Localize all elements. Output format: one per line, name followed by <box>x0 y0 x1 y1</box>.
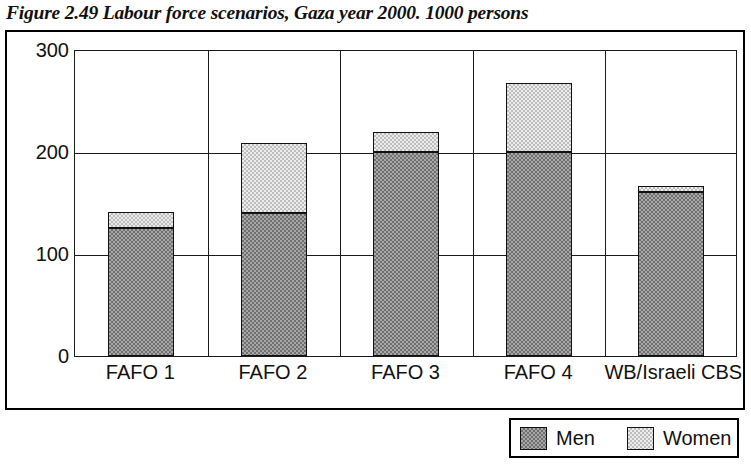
bar-segment-men-wb-israeli-cbs[interactable] <box>638 192 704 356</box>
category-separator-3 <box>473 51 474 356</box>
x-tick-fafo-2: FAFO 2 <box>207 359 340 385</box>
legend-item-women[interactable]: Women <box>627 427 732 450</box>
bar-segment-women-fafo-1[interactable] <box>108 212 174 228</box>
category-separator-4 <box>605 51 606 356</box>
bar-segment-women-fafo-2[interactable] <box>241 143 307 213</box>
x-tick-fafo-4: FAFO 4 <box>472 359 605 385</box>
bar-segment-men-fafo-4[interactable] <box>506 152 572 356</box>
plot-inner <box>75 51 736 356</box>
x-tick-wb-israeli-cbs: WB/Israeli CBS <box>604 359 737 385</box>
legend-item-men[interactable]: Men <box>520 427 595 450</box>
bar-segment-men-fafo-1[interactable] <box>108 228 174 356</box>
bar-segment-men-fafo-3[interactable] <box>373 152 439 356</box>
x-tick-fafo-3: FAFO 3 <box>339 359 472 385</box>
plot-area <box>74 50 737 357</box>
legend-swatch-women-icon <box>627 427 654 450</box>
bar-segment-men-fafo-2[interactable] <box>241 213 307 356</box>
chart-legend: Men Women <box>509 418 739 458</box>
y-tick-100: 100 <box>11 244 69 264</box>
x-tick-fafo-1: FAFO 1 <box>74 359 207 385</box>
legend-label-women: Women <box>663 428 732 448</box>
y-axis: 300 200 100 0 <box>7 50 69 357</box>
bar-segment-women-fafo-3[interactable] <box>373 132 439 153</box>
y-tick-200: 200 <box>11 142 69 162</box>
category-separator-2 <box>340 51 341 356</box>
figure-title: Figure 2.49 Labour force scenarios, Gaza… <box>6 0 746 27</box>
bar-group-wb-israeli-cbs[interactable] <box>638 186 704 356</box>
y-tick-300: 300 <box>11 40 69 60</box>
bar-group-fafo-1[interactable] <box>108 212 174 356</box>
legend-swatch-men-icon <box>520 427 547 450</box>
chart-frame: 300 200 100 0 <box>5 30 745 410</box>
bar-segment-women-fafo-4[interactable] <box>506 83 572 153</box>
x-axis: FAFO 1 FAFO 2 FAFO 3 FAFO 4 WB/Israeli C… <box>74 359 737 389</box>
bar-group-fafo-3[interactable] <box>373 132 439 356</box>
bar-group-fafo-4[interactable] <box>506 83 572 356</box>
category-separator-1 <box>208 51 209 356</box>
legend-label-men: Men <box>556 428 595 448</box>
y-tick-0: 0 <box>11 346 69 366</box>
bar-group-fafo-2[interactable] <box>241 143 307 356</box>
